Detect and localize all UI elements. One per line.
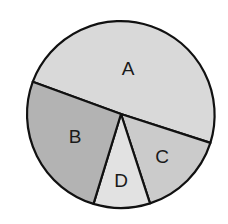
label-b: B: [69, 126, 82, 147]
pie-chart: A B C D: [0, 0, 228, 224]
label-d: D: [114, 170, 128, 191]
label-c: C: [155, 146, 169, 167]
label-a: A: [122, 58, 135, 79]
